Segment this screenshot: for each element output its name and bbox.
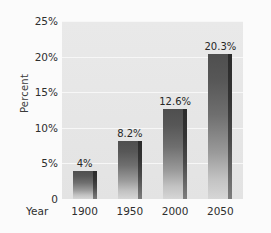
- bars-layer: 4%8.2%12.6%20.3%: [62, 21, 243, 199]
- x-axis-tick-label: 2000: [152, 205, 198, 217]
- y-axis-tick-label: 10%: [14, 123, 58, 134]
- bar-shadow: [138, 141, 142, 199]
- bar[interactable]: [163, 109, 183, 199]
- bar-shadow: [93, 171, 97, 199]
- x-axis-tick-label: 1900: [62, 205, 108, 217]
- x-axis-tick-label: 1950: [107, 205, 153, 217]
- y-axis-tick-label: 5%: [14, 158, 58, 169]
- y-axis-tick-label: 0: [14, 194, 58, 205]
- y-axis-tick-labels: 25%20%15%10%5%0: [14, 0, 58, 233]
- bar[interactable]: [208, 54, 228, 199]
- bar-value-label: 12.6%: [154, 96, 196, 107]
- bar[interactable]: [73, 171, 93, 199]
- x-axis-tick-label: 2050: [197, 205, 243, 217]
- bar-shadow: [228, 54, 232, 199]
- y-axis-tick-label: 15%: [14, 87, 58, 98]
- x-axis-title: Year: [26, 205, 48, 217]
- bar-chart: Percent 25%20%15%10%5%0 4%8.2%12.6%20.3%…: [0, 0, 271, 233]
- y-axis-tick-label: 25%: [14, 16, 58, 27]
- plot-area: 4%8.2%12.6%20.3%: [62, 21, 243, 199]
- y-axis-tick-label: 20%: [14, 52, 58, 63]
- bar-group[interactable]: [163, 109, 187, 199]
- bar[interactable]: [118, 141, 138, 199]
- bar-group[interactable]: [208, 54, 232, 199]
- bar-value-label: 4%: [64, 158, 106, 169]
- bar-value-label: 20.3%: [199, 41, 241, 52]
- bar-shadow: [183, 109, 187, 199]
- bar-group[interactable]: [73, 171, 97, 199]
- bar-value-label: 8.2%: [109, 128, 151, 139]
- bar-group[interactable]: [118, 141, 142, 199]
